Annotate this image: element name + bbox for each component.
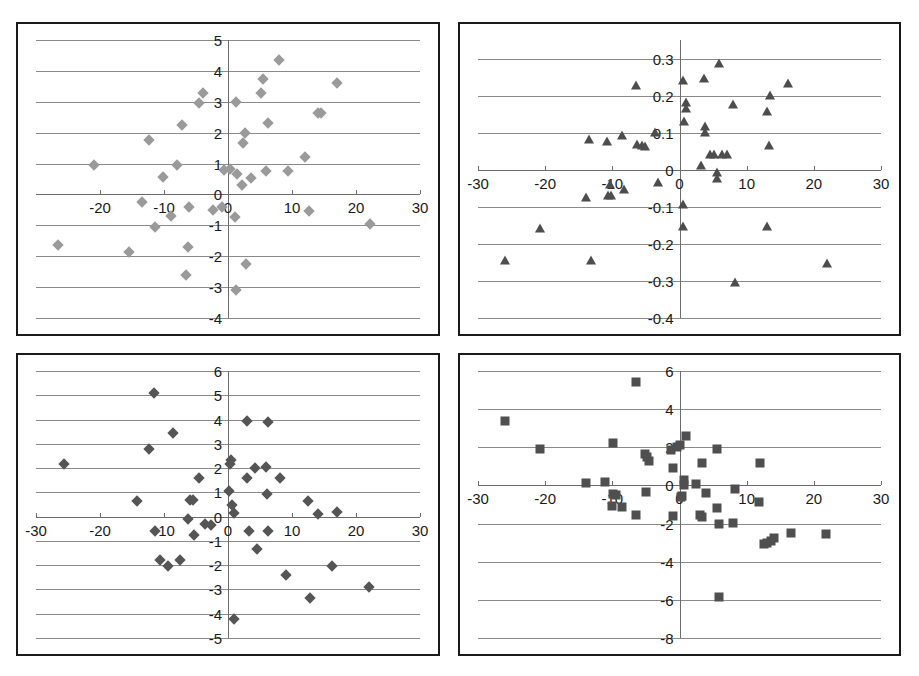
data-point <box>756 458 765 467</box>
x-tick-mark <box>545 481 546 485</box>
data-point <box>762 222 772 231</box>
scatter-plot-top-right: -30-20-1001020300.30.20.10-0.1-0.2-0.3-0… <box>460 24 899 334</box>
x-tick-mark <box>36 513 37 517</box>
data-point <box>535 224 545 233</box>
y-axis-tick-label: 6 <box>214 364 222 379</box>
data-point <box>765 90 775 99</box>
y-axis-tick-label: 0 <box>214 187 222 202</box>
x-axis-tick-label: 10 <box>738 176 755 191</box>
data-point <box>230 96 241 107</box>
data-point <box>223 485 234 496</box>
data-point <box>262 526 273 537</box>
data-point <box>299 152 310 163</box>
y-axis-tick-label: 3 <box>214 436 222 451</box>
gridline-horizontal <box>478 318 881 319</box>
data-point <box>327 561 338 572</box>
data-point <box>582 478 591 487</box>
data-point <box>274 472 285 483</box>
x-axis-tick-label: 10 <box>284 523 301 538</box>
x-tick-mark <box>881 481 882 485</box>
x-tick-mark <box>747 481 748 485</box>
y-axis-tick-label: -2 <box>209 249 222 264</box>
x-tick-mark <box>356 190 357 194</box>
data-point <box>730 485 739 494</box>
data-point <box>669 464 678 473</box>
data-point <box>240 258 251 269</box>
data-point <box>260 461 271 472</box>
data-point <box>231 169 242 180</box>
data-point <box>619 185 629 194</box>
data-point <box>312 508 323 519</box>
x-axis-tick-label: 30 <box>412 200 429 215</box>
data-point <box>236 180 247 191</box>
data-point <box>713 504 722 513</box>
data-point <box>194 472 205 483</box>
x-axis-tick-label: -20 <box>89 200 111 215</box>
y-axis-tick-label: -2 <box>209 558 222 573</box>
y-axis-tick-label: -3 <box>209 280 222 295</box>
y-axis-tick-label: 0.3 <box>653 51 674 66</box>
y-axis-tick-label: -0.4 <box>648 311 674 326</box>
data-point <box>668 511 677 520</box>
data-point <box>304 206 315 217</box>
data-point <box>675 441 684 450</box>
x-tick-mark <box>612 481 613 485</box>
data-point <box>692 480 701 489</box>
data-point <box>700 127 710 136</box>
y-axis-tick-label: 0 <box>665 478 673 493</box>
chart-frame-bottom-left: -30-20-1001020306543210-1-2-3-4-5 <box>16 353 440 656</box>
data-point <box>712 174 722 183</box>
data-point <box>149 221 160 232</box>
x-axis-tick-label: 20 <box>805 176 822 191</box>
y-axis-tick-label: -4 <box>660 554 673 569</box>
x-axis-tick-label: 20 <box>348 200 365 215</box>
data-point <box>678 75 688 84</box>
data-point <box>786 529 795 538</box>
chart-frame-bottom-right: -30-20-1001020306420-2-4-6-8 <box>458 353 901 656</box>
data-point <box>631 510 640 519</box>
x-tick-mark <box>881 166 882 170</box>
y-axis-tick-label: -0.3 <box>648 273 674 288</box>
x-tick-mark <box>478 166 479 170</box>
x-tick-mark <box>164 513 165 517</box>
x-tick-mark <box>420 190 421 194</box>
x-tick-mark <box>680 166 681 170</box>
y-axis-tick-label: 4 <box>665 402 673 417</box>
data-point <box>679 116 689 125</box>
data-point <box>678 222 688 231</box>
y-axis-tick-label: -0.1 <box>648 199 674 214</box>
y-axis-tick-label: -1 <box>209 533 222 548</box>
data-point <box>182 513 193 524</box>
data-point <box>644 456 653 465</box>
data-point <box>640 141 650 150</box>
data-point <box>302 495 313 506</box>
data-point <box>650 127 660 136</box>
x-tick-mark <box>100 190 101 194</box>
data-point <box>698 512 707 521</box>
x-axis-tick-label: -20 <box>89 523 111 538</box>
data-point <box>730 277 740 286</box>
y-axis-tick-label: 2 <box>214 125 222 140</box>
x-axis-tick-label: -30 <box>467 176 489 191</box>
data-point <box>676 492 685 501</box>
y-axis-tick-label: 5 <box>214 388 222 403</box>
data-point <box>262 416 273 427</box>
data-point <box>167 427 178 438</box>
gridline-horizontal <box>36 638 420 639</box>
data-point <box>617 503 626 512</box>
x-axis-tick-label: -20 <box>534 491 556 506</box>
data-point <box>822 259 832 268</box>
data-point <box>762 107 772 116</box>
data-point <box>331 78 342 89</box>
data-point <box>681 103 691 112</box>
x-tick-mark <box>292 190 293 194</box>
x-tick-mark <box>100 513 101 517</box>
data-point <box>180 269 191 280</box>
data-point <box>535 445 544 454</box>
x-tick-mark <box>814 481 815 485</box>
data-point <box>243 526 254 537</box>
data-point <box>581 192 591 201</box>
x-axis-tick-label: 20 <box>348 523 365 538</box>
x-axis-tick-label: -20 <box>534 176 556 191</box>
y-axis-tick-label: -4 <box>209 606 222 621</box>
